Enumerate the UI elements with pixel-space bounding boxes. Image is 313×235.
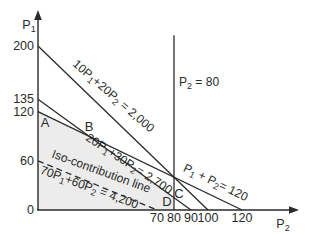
vertex-label-A: A [41, 115, 50, 130]
line-120-label-1: P1 + P2= 120 [181, 161, 251, 206]
line-p2-80-label-1: P2 = 80 [179, 75, 219, 91]
x-tick-label-100: 100 [198, 211, 219, 225]
y-tick-label-200: 200 [13, 39, 34, 53]
vertex-label-D: D [162, 194, 171, 209]
x-tick-label-70: 70 [150, 211, 164, 225]
y-axis-arrowhead-icon [34, 10, 42, 20]
vertex-label-C: C [174, 186, 183, 201]
x-axis-arrowhead-icon [289, 206, 299, 214]
y-tick-label-0: 0 [27, 203, 34, 217]
x-axis-label: P2 [276, 217, 289, 233]
diagram-canvas: 200135120600708090100120P1P210P1+20P2 = … [0, 0, 313, 235]
line-2000-label-1: 10P1+20P2 = 2,000 [69, 57, 157, 137]
x-tick-label-120: 120 [232, 211, 253, 225]
vertex-label-B: B [85, 119, 94, 134]
y-tick-label-60: 60 [20, 154, 34, 168]
y-tick-label-120: 120 [13, 105, 34, 119]
y-axis-label: P1 [22, 18, 35, 34]
x-tick-label-90: 90 [184, 211, 198, 225]
x-tick-label-80: 80 [167, 211, 181, 225]
lp-feasible-region-figure: 200135120600708090100120P1P210P1+20P2 = … [0, 0, 313, 235]
